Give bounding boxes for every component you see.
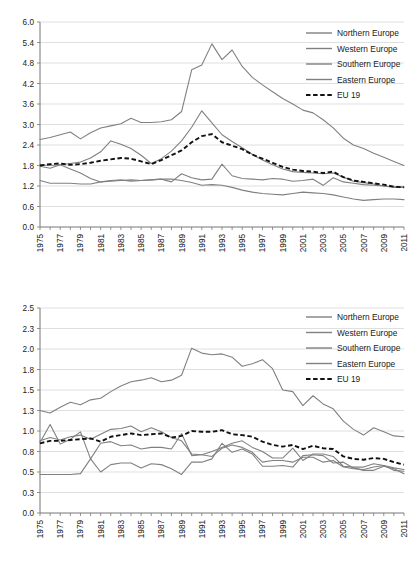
x-axis-tick-label: 2001 [299,520,308,539]
x-axis-tick-label: 2001 [299,234,308,253]
x-axis-group: 1975197719791981198319851987198919911993… [36,513,409,538]
x-axis-tick-label: 2007 [360,520,369,539]
x-axis-tick-label: 1985 [137,234,146,253]
x-axis-tick-label: 1981 [97,520,106,539]
x-axis-tick-label: 2007 [360,234,369,253]
y-axis-tick-label: 4.8 [23,59,35,68]
x-axis-tick-label: 1997 [258,520,267,539]
x-axis-tick-label: 2003 [319,520,328,539]
y-axis-tick-label: 5.4 [23,39,35,48]
x-axis-tick-label: 1991 [198,234,207,253]
y-axis-tick-label: 2.4 [23,141,35,150]
x-axis-tick-label: 2009 [380,234,389,253]
y-axis-tick-label: 1.8 [23,162,35,171]
figure-container: 0.00.61.21.82.43.03.64.24.85.46.01975197… [0,0,417,572]
x-axis-tick-label: 1979 [76,520,85,539]
y-axis-tick-label: 6.0 [23,18,35,27]
x-axis-tick-label: 1977 [56,520,65,539]
y-axis-tick-label: 0.0 [23,223,35,232]
x-axis-tick-label: 1995 [238,520,247,539]
x-axis-tick-label: 1983 [117,234,126,253]
y-axis-tick-label: 4.2 [23,80,35,89]
y-axis-tick-label: 1.0 [23,427,35,436]
y-axis-tick-label: 1.5 [23,386,35,395]
x-axis-tick-label: 2003 [319,234,328,253]
legend: Northern EuropeWestern EuropeSouthern Eu… [306,312,401,384]
series-line-western-europe [40,426,404,469]
line-chart-top: 0.00.61.21.82.43.03.64.24.85.46.01975197… [0,0,417,286]
legend-label-eu-19: EU 19 [337,374,361,384]
x-axis-tick-label: 1975 [36,520,45,539]
x-axis-tick-label: 1981 [97,234,106,253]
y-axis-tick-label: 3.0 [23,121,35,130]
y-axis-tick-label: 3.6 [23,100,35,109]
series-line-northern-europe [40,111,404,188]
line-chart-bottom: 0.00.30.50.81.01.31.51.82.02.32.51975197… [0,286,417,572]
x-axis-tick-label: 1985 [137,520,146,539]
x-axis-tick-label: 2011 [400,520,409,538]
x-axis-tick-label: 1989 [178,234,187,253]
x-axis-tick-label: 2005 [339,234,348,253]
legend-label-western-europe: Western Europe [337,328,398,338]
x-axis-tick-label: 1995 [238,234,247,253]
x-axis-group: 1975197719791981198319851987198919911993… [36,227,409,252]
chart-panel-bottom: 0.00.30.50.81.01.31.51.82.02.32.51975197… [0,286,417,572]
legend-label-southern-europe: Southern Europe [337,59,401,69]
legend-label-eu-19: EU 19 [337,90,361,100]
legend-label-northern-europe: Northern Europe [337,312,399,322]
y-axis-tick-label: 0.3 [23,489,35,498]
y-axis-tick-label: 2.0 [23,345,35,354]
y-axis-tick-label: 2.3 [23,325,35,334]
legend-label-eastern-europe: Eastern Europe [337,75,396,85]
x-axis-tick-label: 1987 [157,520,166,539]
legend: Northern EuropeWestern EuropeSouthern Eu… [306,28,401,100]
legend-label-northern-europe: Northern Europe [337,28,399,38]
y-axis-tick-label: 0.8 [23,448,35,457]
chart-panel-top: 0.00.61.21.82.43.03.64.24.85.46.01975197… [0,0,417,286]
x-axis-tick-label: 1977 [56,234,65,253]
y-axis-tick-label: 0.0 [23,509,35,518]
x-axis-tick-label: 1991 [198,520,207,539]
x-axis-tick-label: 1999 [279,520,288,539]
x-axis-tick-label: 2011 [400,234,409,252]
x-axis-tick-label: 2005 [339,520,348,539]
x-axis-tick-label: 2009 [380,520,389,539]
y-axis-tick-label: 2.5 [23,304,35,313]
legend-label-eastern-europe: Eastern Europe [337,359,396,369]
x-axis-tick-label: 1983 [117,520,126,539]
legend-label-western-europe: Western Europe [337,44,398,54]
y-axis-tick-label: 1.8 [23,366,35,375]
legend-label-southern-europe: Southern Europe [337,343,401,353]
x-axis-tick-label: 1999 [279,234,288,253]
x-axis-tick-label: 1979 [76,234,85,253]
y-axis-tick-label: 1.2 [23,182,35,191]
x-axis-tick-label: 1975 [36,234,45,253]
y-axis-tick-label: 0.6 [23,203,35,212]
x-axis-tick-label: 1993 [218,234,227,253]
x-axis-tick-label: 1997 [258,234,267,253]
x-axis-tick-label: 1989 [178,520,187,539]
series-line-eastern-europe [40,164,404,187]
x-axis-tick-label: 1987 [157,234,166,253]
x-axis-tick-label: 1993 [218,520,227,539]
y-axis-tick-label: 0.5 [23,468,35,477]
y-axis-tick-label: 1.3 [23,407,35,416]
